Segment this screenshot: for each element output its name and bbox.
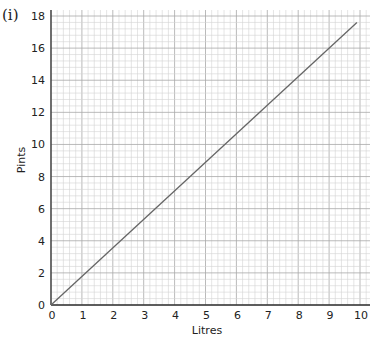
y-axis-title: Pints bbox=[15, 147, 28, 174]
x-tick-label: 9 bbox=[327, 309, 334, 322]
x-tick-label: 6 bbox=[234, 309, 241, 322]
y-tick-label: 14 bbox=[31, 74, 45, 87]
x-tick-label: 0 bbox=[49, 309, 56, 322]
y-tick-label: 8 bbox=[38, 171, 45, 184]
y-tick-label: 10 bbox=[31, 138, 45, 151]
y-tick-label: 2 bbox=[38, 267, 45, 280]
x-tick-label: 1 bbox=[79, 309, 86, 322]
y-tick-label: 12 bbox=[31, 106, 45, 119]
x-tick-label: 5 bbox=[203, 309, 210, 322]
conversion-chart: 012345678910 024681012141618 Litres Pint… bbox=[0, 0, 389, 346]
x-tick-label: 4 bbox=[172, 309, 179, 322]
y-tick-label: 18 bbox=[31, 10, 45, 23]
y-tick-label: 6 bbox=[38, 203, 45, 216]
x-tick-label: 2 bbox=[110, 309, 117, 322]
x-tick-label: 7 bbox=[265, 309, 272, 322]
x-tick-label: 3 bbox=[141, 309, 148, 322]
x-axis-title: Litres bbox=[192, 324, 223, 337]
y-tick-label: 16 bbox=[31, 42, 45, 55]
y-tick-labels: 024681012141618 bbox=[31, 10, 45, 312]
x-tick-labels: 012345678910 bbox=[49, 309, 369, 322]
x-tick-label: 10 bbox=[354, 309, 368, 322]
x-tick-label: 8 bbox=[296, 309, 303, 322]
y-tick-label: 0 bbox=[38, 299, 45, 312]
y-tick-label: 4 bbox=[38, 235, 45, 248]
